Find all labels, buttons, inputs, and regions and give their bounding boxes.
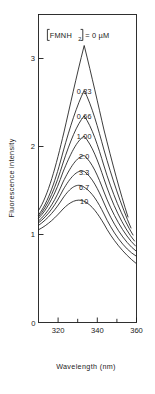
series-header-value: = 0 µM [85, 31, 109, 40]
x-tick-label-360: 360 [130, 326, 143, 335]
y-tick-label-1: 1 [31, 230, 35, 239]
y-axis-title: Fluorescence intensity [7, 138, 16, 217]
x-axis-ticks [58, 318, 136, 323]
x-tick-label-340: 340 [91, 326, 104, 335]
curve-label-group: 0.33 0.66 1.00 2.0 3.3 6.7 10 [77, 87, 92, 207]
curve-label-0.66: 0.66 [77, 112, 92, 121]
figure-container: 3 2 1 0 320 340 360 Wavelength (nm) Fluo… [0, 0, 155, 394]
curve-label-6.7: 6.7 [79, 183, 90, 192]
curve-label-3.3: 3.3 [79, 168, 90, 177]
curve-label-1.00: 1.00 [77, 132, 92, 141]
x-axis-tick-labels: 320 340 360 [52, 326, 143, 335]
series-header-species: FMNH [50, 31, 72, 40]
y-axis-tick-labels: 3 2 1 [31, 54, 35, 239]
x-tick-label-320: 320 [52, 326, 65, 335]
y-tick-label-2: 2 [31, 142, 35, 151]
x-axis-title: Wavelength (nm) [56, 362, 116, 371]
curve-label-0.33: 0.33 [77, 87, 92, 96]
spectral-curve-10 [39, 200, 137, 263]
y-tick-label-3: 3 [31, 54, 35, 63]
curve-label-10: 10 [80, 197, 88, 206]
origin-label: 0 [31, 319, 35, 328]
curve-label-2.0: 2.0 [79, 152, 90, 161]
fluorescence-spectra-chart: 3 2 1 0 320 340 360 Wavelength (nm) Fluo… [0, 0, 155, 394]
series-header-annotation: FMNH 2 = 0 µM [47, 29, 109, 41]
